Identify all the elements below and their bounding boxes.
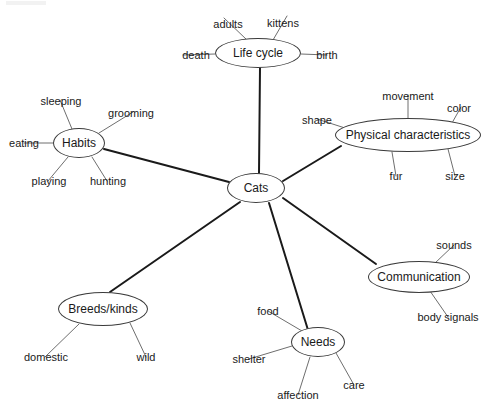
main-edge-cats-to-breeds-kinds [110,202,240,292]
leaf-label-needs-3[interactable]: care [343,380,364,391]
leaf-label-needs-1[interactable]: shelter [232,354,265,365]
leaf-label-physical-characteristics-0[interactable]: movement [382,91,433,102]
leaf-label-breeds-kinds-0[interactable]: domestic [24,352,68,363]
node-needs[interactable]: Needs [291,327,345,357]
node-needs-label: Needs [301,336,336,348]
leaf-label-habits-3[interactable]: playing [32,176,67,187]
leaf-label-needs-2[interactable]: affection [277,390,318,401]
node-physical-characteristics-label: Physical characteristics [346,129,471,141]
leaf-label-life-cycle-3[interactable]: birth [316,50,337,61]
main-edge-cats-to-communication [283,198,376,264]
node-life-cycle-label: Life cycle [233,47,283,59]
mind-map-canvas: Life cycleHabitsPhysical characteristics… [0,0,484,415]
leaf-label-life-cycle-0[interactable]: adults [213,19,242,30]
leaf-label-life-cycle-2[interactable]: death [182,50,210,61]
node-habits[interactable]: Habits [53,128,105,158]
node-communication-label: Communication [377,271,460,283]
leaf-label-communication-0[interactable]: sounds [436,240,471,251]
leaf-label-needs-0[interactable]: food [257,306,278,317]
leaf-label-habits-2[interactable]: eating [9,138,39,149]
node-breeds-kinds-label: Breeds/kinds [68,303,137,315]
node-life-cycle[interactable]: Life cycle [215,38,301,68]
leaf-label-habits-0[interactable]: sleeping [41,96,82,107]
leaf-label-physical-characteristics-4[interactable]: size [445,171,465,182]
leaf-label-communication-1[interactable]: body signals [417,312,478,323]
leaf-label-habits-4[interactable]: hunting [90,176,126,187]
node-communication[interactable]: Communication [368,261,470,293]
leaf-label-life-cycle-1[interactable]: kittens [267,18,299,29]
node-habits-label: Habits [62,137,96,149]
leaf-edge-group [24,16,461,395]
node-cats-label: Cats [244,182,269,194]
leaf-label-physical-characteristics-2[interactable]: shape [302,115,332,126]
main-edge-cats-to-physical-characteristics [283,146,341,181]
node-cats[interactable]: Cats [227,173,285,203]
node-breeds-kinds[interactable]: Breeds/kinds [58,292,148,326]
leaf-label-physical-characteristics-1[interactable]: color [447,103,471,114]
main-edge-cats-to-life-cycle [259,68,260,173]
node-physical-characteristics[interactable]: Physical characteristics [335,118,481,152]
leaf-label-physical-characteristics-3[interactable]: fur [390,171,403,182]
leaf-label-habits-1[interactable]: grooming [108,108,154,119]
leaf-label-breeds-kinds-1[interactable]: wild [137,352,156,363]
